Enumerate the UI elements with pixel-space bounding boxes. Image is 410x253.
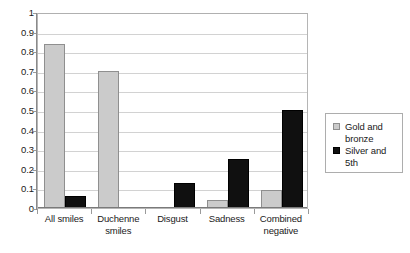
- y-tick-label: 0.7: [0, 67, 34, 77]
- bar: [228, 159, 249, 208]
- x-axis-category-label: Combinednegative: [254, 213, 308, 236]
- bar: [261, 190, 282, 208]
- x-axis-category-label: Sadness: [200, 213, 254, 225]
- legend-label-line: Silver and: [345, 145, 386, 157]
- x-axis-category-label-line: Duchenne: [91, 213, 145, 225]
- legend-label-line: 5th: [345, 157, 386, 169]
- bar-group: [98, 14, 140, 208]
- legend-item-gold-and-bronze[interactable]: Gold andbronze: [333, 121, 383, 144]
- bar-chart: 10.90.80.70.60.50.40.30.20.10 All smiles…: [0, 0, 410, 253]
- x-axis-category-label-line: negative: [254, 225, 308, 237]
- bar: [174, 183, 195, 208]
- bar-group: [207, 14, 249, 208]
- x-axis-category-label: Duchennesmiles: [91, 213, 145, 236]
- x-axis-category-label-line: Sadness: [200, 213, 254, 225]
- x-axis-baseline: [38, 207, 307, 208]
- x-axis-category-label: All smiles: [37, 213, 91, 225]
- legend-item-silver-and-5th[interactable]: Silver and5th: [333, 145, 386, 168]
- x-axis-labels: All smilesDuchennesmilesDisgustSadnessCo…: [37, 213, 308, 253]
- y-tick-label: 0: [0, 204, 34, 214]
- bar: [282, 110, 303, 208]
- y-tick-label: 0.3: [0, 145, 34, 155]
- plot-area: [37, 13, 308, 209]
- legend-label-line: Gold and: [345, 121, 383, 133]
- bar: [44, 44, 65, 208]
- x-axis-category-label-line: Combined: [254, 213, 308, 225]
- x-axis-category-label-line: Disgust: [145, 213, 199, 225]
- bar: [98, 71, 119, 208]
- legend-label-silver-and-5th: Silver and5th: [345, 145, 386, 168]
- x-tick-mark: [308, 209, 309, 214]
- legend-swatch-icon-gold-and-bronze: [333, 123, 340, 130]
- legend-swatch-icon-silver-and-5th: [333, 147, 340, 154]
- x-axis-category-label-line: All smiles: [37, 213, 91, 225]
- bar-group: [261, 14, 303, 208]
- bar-group: [153, 14, 195, 208]
- y-tick-label: 1: [0, 8, 34, 18]
- x-axis-category-label-line: smiles: [91, 225, 145, 237]
- bars-layer: [38, 14, 307, 208]
- y-axis: 10.90.80.70.60.50.40.30.20.10: [0, 0, 34, 253]
- y-tick-label: 0.1: [0, 184, 34, 194]
- y-tick-label: 0.5: [0, 106, 34, 116]
- legend: Gold andbronze Silver and5th: [325, 113, 403, 173]
- y-tick-label: 0.4: [0, 126, 34, 136]
- x-axis-category-label: Disgust: [145, 213, 199, 225]
- y-tick-label: 0.2: [0, 165, 34, 175]
- y-tick-label: 0.9: [0, 28, 34, 38]
- y-tick-label: 0.6: [0, 86, 34, 96]
- legend-label-line: bronze: [345, 133, 383, 145]
- y-tick-label: 0.8: [0, 47, 34, 57]
- legend-label-gold-and-bronze: Gold andbronze: [345, 121, 383, 144]
- bar-group: [44, 14, 86, 208]
